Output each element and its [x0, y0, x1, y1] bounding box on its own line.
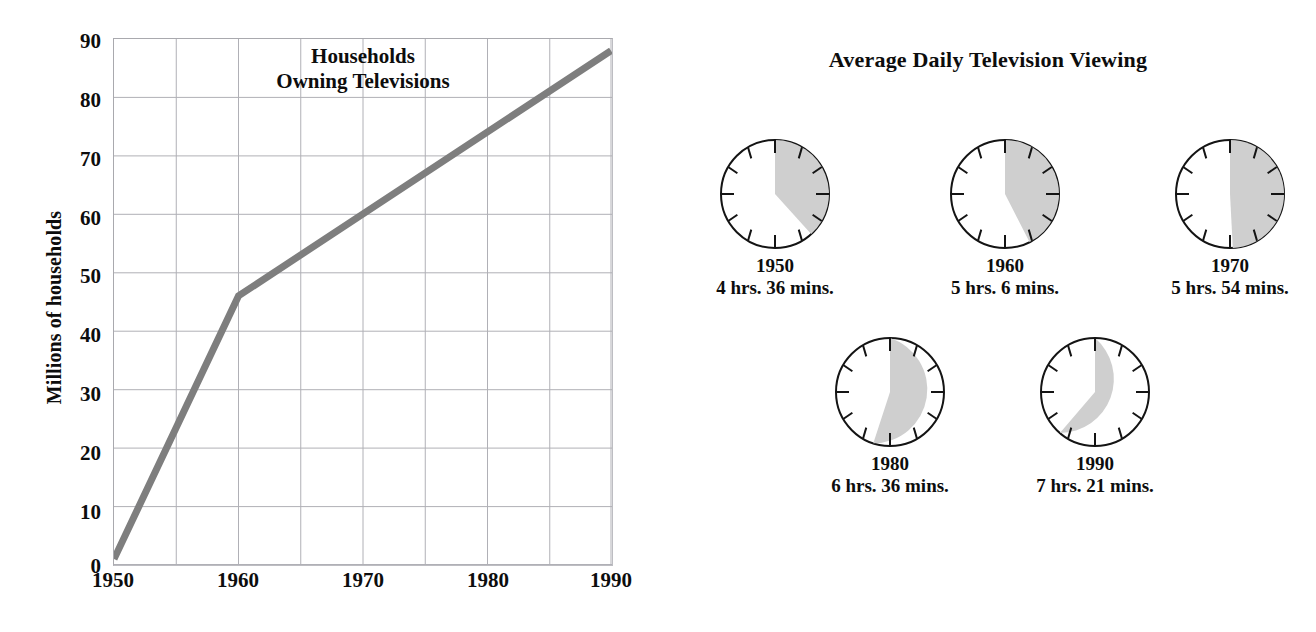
- clock-cell-1970: 1970 5 hrs. 54 mins.: [1145, 135, 1315, 300]
- y-tick-60: 60: [45, 208, 101, 229]
- clock-cell-1990: 1990 7 hrs. 21 mins.: [1010, 333, 1180, 498]
- y-tick-20: 20: [45, 443, 101, 464]
- y-tick-90: 90: [45, 31, 101, 52]
- clock-time-1990: 7 hrs. 21 mins.: [1010, 475, 1180, 497]
- average-daily-television-viewing-chart: Average Daily Television Viewing 1950: [660, 0, 1316, 632]
- clock-caption-1980: 1980 6 hrs. 36 mins.: [805, 453, 975, 498]
- clock-year-1960: 1960: [920, 255, 1090, 277]
- y-tick-40: 40: [45, 325, 101, 346]
- clock-caption-1970: 1970 5 hrs. 54 mins.: [1145, 255, 1315, 300]
- clock-year-1980: 1980: [805, 453, 975, 475]
- y-tick-70: 70: [45, 149, 101, 170]
- x-tick-1960: 1960: [193, 570, 283, 591]
- x-tick-1990: 1990: [566, 570, 656, 591]
- clock-year-1990: 1990: [1010, 453, 1180, 475]
- clock-cell-1950: 1950 4 hrs. 36 mins.: [690, 135, 860, 300]
- clock-time-1950: 4 hrs. 36 mins.: [690, 277, 860, 299]
- clock-year-1970: 1970: [1145, 255, 1315, 277]
- x-tick-1980: 1980: [443, 570, 533, 591]
- clock-dial-1960: [946, 135, 1064, 253]
- y-tick-10: 10: [45, 502, 101, 523]
- clock-dial-1980: [831, 333, 949, 451]
- clock-caption-1950: 1950 4 hrs. 36 mins.: [690, 255, 860, 300]
- households-owning-televisions-chart: Millions of households 90 80 70 60 50 40…: [0, 0, 660, 632]
- chart-title: Households Owning Televisions: [213, 44, 513, 94]
- clock-cell-1980: 1980 6 hrs. 36 mins.: [805, 333, 975, 498]
- clock-dial-1950: [716, 135, 834, 253]
- y-tick-30: 30: [45, 384, 101, 405]
- clock-time-1960: 5 hrs. 6 mins.: [920, 277, 1090, 299]
- y-tick-50: 50: [45, 266, 101, 287]
- y-tick-80: 80: [45, 90, 101, 111]
- chart-title-line-1: Households: [311, 44, 415, 68]
- x-tick-1970: 1970: [318, 570, 408, 591]
- clock-chart-title: Average Daily Television Viewing: [660, 47, 1316, 73]
- clock-caption-1990: 1990 7 hrs. 21 mins.: [1010, 453, 1180, 498]
- clock-time-1970: 5 hrs. 54 mins.: [1145, 277, 1315, 299]
- chart-title-line-2: Owning Televisions: [276, 69, 449, 93]
- clock-dial-1970: [1171, 135, 1289, 253]
- plot-area: [113, 38, 613, 566]
- clock-dial-1990: [1036, 333, 1154, 451]
- y-axis-title: Millions of households: [43, 158, 66, 458]
- grid-lines-vertical: [176, 39, 611, 565]
- clock-year-1950: 1950: [690, 255, 860, 277]
- x-tick-1950: 1950: [68, 570, 158, 591]
- clock-cell-1960: 1960 5 hrs. 6 mins.: [920, 135, 1090, 300]
- clock-caption-1960: 1960 5 hrs. 6 mins.: [920, 255, 1090, 300]
- plot-svg: [114, 39, 612, 565]
- clock-time-1980: 6 hrs. 36 mins.: [805, 475, 975, 497]
